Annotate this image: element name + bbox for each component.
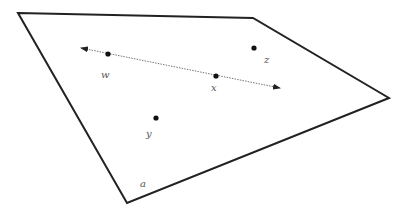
plane-label: a (140, 178, 146, 189)
geometry-diagram: wxzy a (0, 0, 409, 218)
point-label-x: x (211, 82, 217, 93)
points-group: wxzy (101, 45, 270, 139)
line-through-w-x (81, 48, 280, 88)
point-label-w: w (101, 69, 110, 80)
point-z (251, 45, 256, 50)
point-w (105, 51, 110, 56)
point-label-z: z (263, 54, 270, 65)
point-label-y: y (145, 128, 152, 139)
plane-a (18, 13, 389, 203)
point-x (213, 73, 218, 78)
point-y (153, 115, 158, 120)
